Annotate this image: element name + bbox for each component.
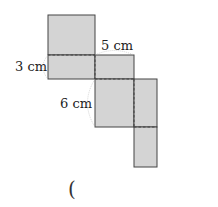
face-left-side [48,55,95,79]
face-right-side [134,79,157,127]
answer-parenthesis: ( [68,177,76,201]
label-5cm: 5 cm [101,38,133,53]
face-middle-large [95,79,134,127]
cuboid-net-diagram: 3 cm 5 cm 6 cm ( [0,0,218,207]
face-top-left [48,15,95,55]
face-middle-top-strip [95,55,134,79]
label-3cm: 3 cm [15,59,47,74]
label-6cm: 6 cm [60,96,92,111]
face-bottom [134,127,157,167]
